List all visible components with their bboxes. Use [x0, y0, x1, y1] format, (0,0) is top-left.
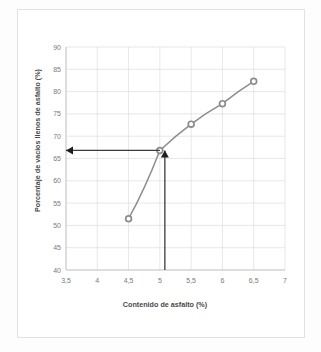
- x-tick-label: 5: [158, 277, 162, 284]
- y-tick-label: 60: [53, 177, 61, 184]
- series-data-point: [220, 101, 226, 107]
- y-tick-label: 70: [53, 133, 61, 140]
- x-axis-title: Contenido de asfalto (%): [123, 300, 208, 309]
- y-tick-label: 80: [53, 88, 61, 95]
- y-tick-label: 55: [53, 200, 61, 207]
- y-axis-title: Porcentaje de vacios llenos de asfalto (…: [33, 68, 42, 212]
- x-tick-labels: 3,544,555,566,57: [61, 277, 287, 284]
- y-tick-label: 45: [53, 244, 61, 251]
- y-tick-label: 75: [53, 110, 61, 117]
- x-tick-label: 7: [283, 277, 287, 284]
- horizontal-guide-arrow-head: [66, 146, 73, 154]
- series-data-point: [188, 121, 194, 127]
- x-tick-label: 6,5: [249, 277, 259, 284]
- x-tick-label: 3,5: [61, 277, 71, 284]
- line-chart-svg: Porcentaje de vacios llenos de asfalto (…: [0, 0, 321, 352]
- x-tick-label: 5,5: [186, 277, 196, 284]
- series-data-point: [251, 78, 257, 84]
- caption-strip: [0, 341, 321, 352]
- y-tick-label: 85: [53, 66, 61, 73]
- x-tick-label: 4,5: [124, 277, 134, 284]
- chart-figure: Porcentaje de vacios llenos de asfalto (…: [0, 0, 321, 352]
- y-tick-labels: 4045505560657075808590: [53, 44, 61, 274]
- y-tick-label: 65: [53, 155, 61, 162]
- y-tick-label: 40: [53, 267, 61, 274]
- page-root: Porcentaje de vacios llenos de asfalto (…: [0, 0, 321, 352]
- series-data-point: [126, 216, 132, 222]
- y-tick-label: 90: [53, 44, 61, 51]
- x-tick-label: 6: [220, 277, 224, 284]
- y-tick-label: 50: [53, 222, 61, 229]
- x-tick-label: 4: [95, 277, 99, 284]
